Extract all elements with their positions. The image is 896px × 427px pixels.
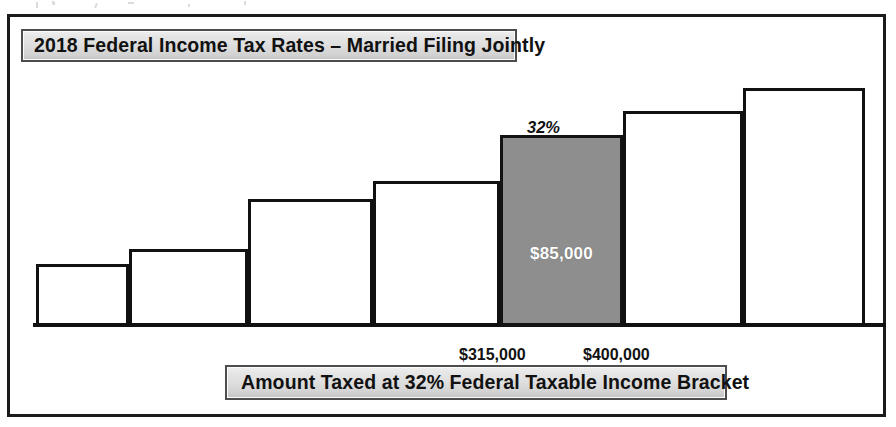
scan-speck [128, 2, 134, 4]
scan-speck [244, 1, 246, 5]
bar-bracket-32-highlighted: $85,000 [500, 135, 623, 326]
scan-speck [188, 4, 190, 7]
bar-bracket-10 [36, 264, 129, 326]
plot-area: $85,000 32% $315,000 $400,000 [10, 17, 883, 414]
scan-speck [94, 3, 98, 8]
chart-caption-plaque: Amount Taxed at 32% Federal Taxable Inco… [225, 365, 727, 400]
chart-caption-text: Amount Taxed at 32% Federal Taxable Inco… [241, 371, 749, 394]
bar-bracket-24 [373, 181, 500, 326]
bar-bracket-12 [129, 249, 248, 326]
bar-bracket-22 [248, 199, 373, 326]
bar-bracket-37 [743, 88, 865, 326]
figure-frame: 2018 Federal Income Tax Rates – Married … [7, 14, 886, 417]
rate-label-32: 32% [527, 118, 560, 137]
scan-speck [36, 2, 38, 8]
scan-artifacts [0, 0, 896, 13]
axis-label-bracket-lower-bound: $315,000 [459, 346, 526, 364]
bar-bracket-35 [623, 111, 743, 326]
scan-speck [51, 1, 55, 6]
bar-amount-label: $85,000 [530, 244, 593, 264]
axis-label-bracket-upper-bound: $400,000 [583, 346, 650, 364]
